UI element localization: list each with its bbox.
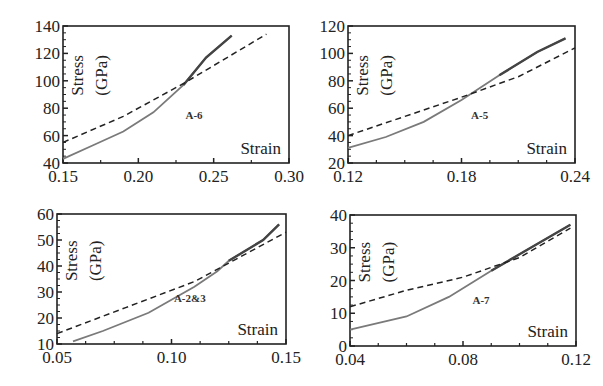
chart-panel-a-6: 0.150.200.250.30406080100120140Stress(GP… (35, 17, 304, 186)
x-tick-label: 0.10 (157, 348, 187, 367)
stress-strain-figure: 0.150.200.250.30406080100120140Stress(GP… (0, 0, 603, 386)
solid-data-curve-tail (229, 224, 279, 260)
y-tick-label: 120 (320, 17, 346, 36)
y-tick-label: 20 (328, 154, 345, 173)
y-tick-label: 20 (330, 272, 347, 291)
y-tick-label: 60 (328, 99, 345, 118)
y-axis-label-units: (GPa) (92, 55, 111, 96)
solid-data-curve (63, 36, 232, 159)
y-axis-label-stress: Stress (62, 240, 81, 281)
y-tick-label: 80 (328, 72, 345, 91)
solid-data-curve-tail (184, 36, 232, 85)
solid-data-curve-tail (491, 225, 570, 271)
panel-label: A-2&3 (174, 292, 206, 304)
y-axis-label-stress: Stress (355, 242, 374, 283)
x-tick-label: 0.15 (271, 348, 301, 367)
x-tick-label: 0.30 (274, 167, 304, 186)
x-tick-label: 0.24 (560, 167, 590, 186)
panel-label: A-7 (473, 294, 491, 306)
y-tick-label: 20 (37, 309, 54, 328)
y-axis-label-units: (GPa) (86, 240, 105, 281)
y-tick-label: 100 (320, 44, 346, 63)
panel-label: A-6 (186, 109, 204, 121)
y-tick-label: 60 (43, 127, 60, 146)
y-tick-label: 10 (330, 304, 347, 323)
y-tick-label: 120 (35, 44, 61, 63)
y-tick-label: 100 (35, 72, 61, 91)
y-axis-label-stress: Stress (353, 55, 372, 96)
y-tick-label: 40 (37, 257, 54, 276)
chart-panel-a-2-3: 0.050.100.15102030405060Stress(GPa)Strai… (37, 205, 301, 367)
y-axis-label-units: (GPa) (379, 242, 398, 283)
x-axis-label-strain: Strain (526, 139, 567, 158)
panel-label: A-5 (471, 109, 489, 121)
y-tick-label: 40 (43, 154, 60, 173)
y-tick-label: 140 (35, 17, 61, 36)
x-tick-label: 0.08 (448, 350, 478, 369)
y-tick-label: 60 (37, 205, 54, 224)
chart-panel-a-7: 0.040.080.12010203040Stress(GPa)StrainA-… (330, 206, 591, 369)
y-tick-label: 0 (339, 337, 348, 356)
y-tick-label: 10 (37, 335, 54, 354)
x-axis-label-strain: Strain (527, 322, 568, 341)
y-tick-label: 30 (37, 283, 54, 302)
x-axis-label-strain: Strain (237, 320, 278, 339)
y-axis-label-stress: Stress (68, 55, 87, 96)
y-tick-label: 40 (330, 206, 347, 225)
x-tick-label: 0.20 (123, 167, 153, 186)
y-tick-label: 40 (328, 127, 345, 146)
y-axis-label-units: (GPa) (377, 55, 396, 96)
chart-panel-a-5: 0.120.180.2420406080100120Stress(GPa)Str… (320, 17, 591, 186)
y-tick-label: 50 (37, 231, 54, 250)
y-tick-label: 30 (330, 239, 347, 258)
y-tick-label: 80 (43, 99, 60, 118)
x-tick-label: 0.12 (561, 350, 591, 369)
x-tick-label: 0.25 (199, 167, 229, 186)
x-tick-label: 0.18 (447, 167, 477, 186)
x-axis-label-strain: Strain (240, 139, 281, 158)
